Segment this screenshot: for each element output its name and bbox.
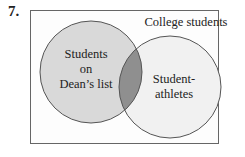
venn-diagram: College students Students on Dean’s list… <box>0 0 245 157</box>
universe-label: College students <box>145 15 228 29</box>
dean-label-2: on <box>80 62 93 76</box>
athletes-label-1: Student- <box>153 72 195 86</box>
dean-label-3: Dean’s list <box>59 77 113 91</box>
athletes-label-2: athletes <box>155 87 193 101</box>
dean-label-1: Students <box>64 47 107 61</box>
